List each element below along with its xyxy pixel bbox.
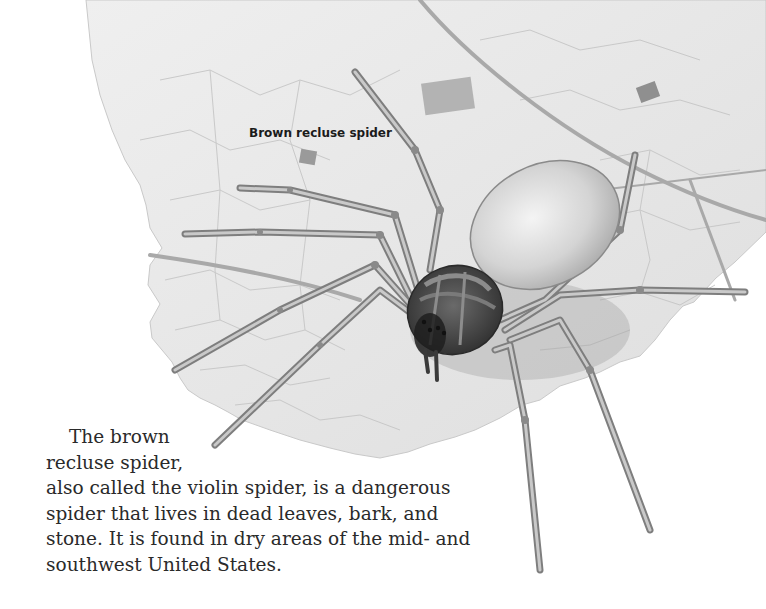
body-paragraph: The brown recluse spider, also called th… — [46, 424, 476, 577]
paragraph-line: stone. It is found in dry areas of the m… — [46, 526, 476, 552]
paragraph-line: The brown — [46, 424, 476, 450]
paragraph-line: recluse spider, — [46, 450, 476, 476]
paragraph-line: also called the violin spider, is a dang… — [46, 475, 476, 501]
book-page: Brown recluse spider The brown recluse s… — [0, 0, 766, 609]
paragraph-line: spider that lives in dead leaves, bark, … — [46, 501, 476, 527]
illustration-caption: Brown recluse spider — [249, 126, 392, 140]
paragraph-line: southwest United States. — [46, 552, 476, 578]
leaf-shape — [86, 0, 766, 458]
